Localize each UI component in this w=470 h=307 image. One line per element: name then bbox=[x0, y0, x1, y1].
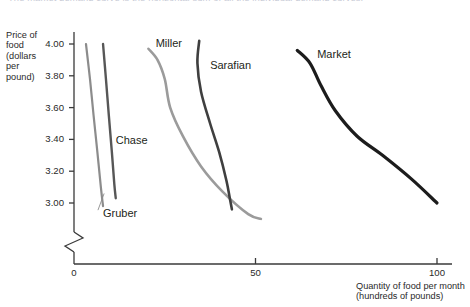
curve-label-sarafian: Sarafian bbox=[210, 59, 251, 71]
x-tick-label: 50 bbox=[236, 267, 276, 278]
demand-curve-gruber bbox=[86, 44, 103, 206]
x-axis-title: Quantity of food per month (hundreds of … bbox=[356, 281, 470, 302]
y-tick-label: 3.80 bbox=[30, 70, 64, 81]
demand-curve-market bbox=[297, 50, 437, 203]
axis-break-zigzag-icon bbox=[65, 232, 83, 252]
curve-label-miller: Miller bbox=[156, 37, 182, 49]
curve-label-chase: Chase bbox=[116, 134, 148, 146]
x-tick-label: 100 bbox=[417, 267, 457, 278]
plot-area bbox=[0, 0, 470, 307]
curve-label-gruber: Gruber bbox=[103, 207, 137, 219]
y-tick-label: 4.00 bbox=[30, 38, 64, 49]
demand-curve-figure: The market demand curve is the horizonta… bbox=[0, 0, 470, 307]
y-tick-label: 3.40 bbox=[30, 133, 64, 144]
y-tick-label: 3.60 bbox=[30, 102, 64, 113]
y-tick-label: 3.20 bbox=[30, 165, 64, 176]
y-tick-label: 3.00 bbox=[30, 197, 64, 208]
curve-label-market: Market bbox=[317, 48, 351, 60]
x-tick-label: 0 bbox=[54, 267, 94, 278]
demand-curve-chase bbox=[103, 44, 116, 198]
demand-curve-miller bbox=[148, 49, 261, 219]
